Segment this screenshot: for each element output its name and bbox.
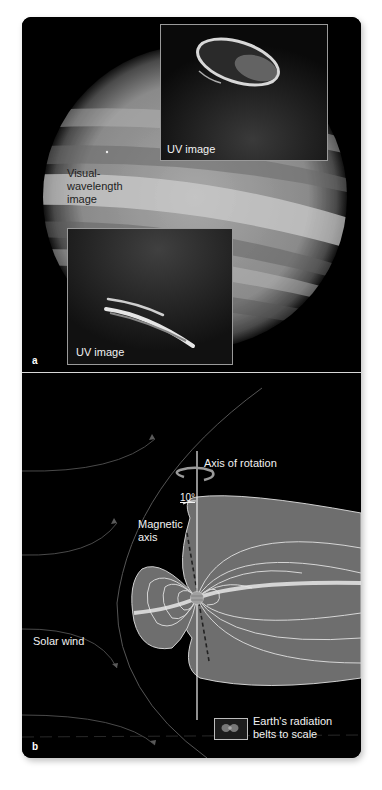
legend-label-line-2: belts to scale — [253, 728, 332, 741]
jupiter-planet-icon — [191, 592, 204, 605]
uv-image-north: UV image — [160, 24, 328, 161]
legend-label-line-1: Earth's radiation — [253, 715, 332, 728]
visual-label-line-3: image — [67, 193, 123, 206]
panel-b: Axis of rotation 10° Magnetic axis Solar… — [22, 373, 361, 758]
legend-label: Earth's radiation belts to scale — [253, 715, 332, 741]
uv-image-north-label: UV image — [167, 143, 215, 156]
visual-label-line-2: wavelength — [67, 180, 123, 193]
panel-b-letter: b — [32, 741, 38, 752]
panel-a-letter: a — [32, 355, 38, 366]
visual-label-line-1: Visual- — [67, 167, 123, 180]
uv-image-south-label: UV image — [76, 346, 124, 359]
uv-image-south: UV image — [67, 228, 233, 365]
magnetic-axis-label-line-1: Magnetic — [138, 518, 183, 531]
panel-a: UV image UV image Visual- wavelength ima… — [22, 17, 361, 372]
axis-of-rotation-label: Axis of rotation — [204, 457, 277, 470]
magnetic-axis-label-line-2: axis — [138, 531, 183, 544]
magnetic-axis-label: Magnetic axis — [138, 518, 183, 544]
north-aurora-image — [161, 25, 327, 160]
magnetosphere-diagram — [22, 373, 361, 758]
south-aurora-image — [68, 229, 232, 364]
tilt-angle-label: 10° — [180, 491, 195, 504]
figure-card: UV image UV image Visual- wavelength ima… — [22, 17, 361, 758]
solar-wind-label: Solar wind — [33, 635, 84, 648]
legend-scale-box — [214, 718, 248, 740]
visual-wavelength-label: Visual- wavelength image — [67, 167, 123, 206]
